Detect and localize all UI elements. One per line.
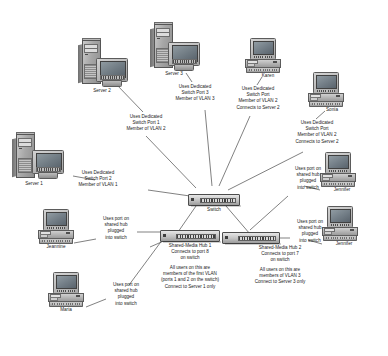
device-sonia[interactable] (308, 72, 342, 106)
network-hub-icon (160, 230, 220, 242)
desktop-computer-icon (308, 72, 342, 106)
desktop-computer-icon (38, 209, 72, 243)
crt-monitor-icon (168, 42, 198, 69)
wire-karen-switch (219, 116, 250, 186)
device-server1[interactable] (12, 134, 34, 176)
note-karen: Uses Dedicated Switch Port Member of VLA… (214, 86, 302, 111)
network-switch-icon (188, 194, 240, 206)
caption-hub2: Shared-Media Hub 2 Connects to port 7 on… (221, 245, 339, 264)
device-switch[interactable] (188, 194, 240, 206)
note-sonia: Uses Dedicated Switch Port Member of VLA… (272, 120, 362, 145)
sonia-note-line-4: Connects to Server 2 (272, 139, 362, 145)
note-jennifer-upper: Uses port on shared hub plugged into swi… (286, 166, 330, 191)
device-maria[interactable] (48, 272, 82, 306)
hub2-legend-line-3: Connect to Server 3 only (221, 279, 339, 285)
wire-server2-switch (146, 136, 196, 188)
desktop-computer-icon (48, 272, 82, 306)
label-server3: Server 3 (150, 71, 198, 77)
server2-monitor (96, 58, 126, 85)
label-sonia: Sonia (312, 107, 352, 113)
note-server2: Uses Dedicated Switch Port 1 Member of V… (99, 114, 193, 133)
jennifer2-note-line-4: into switch (288, 238, 332, 244)
wire-server1-switch (148, 190, 190, 196)
note-jennifer-lower: Uses port on shared hub plugged into swi… (288, 219, 332, 244)
wire-jennifer1-hub2 (250, 196, 288, 230)
jeannine-note-line-4: into switch (94, 235, 138, 241)
note-jeannine: Uses port on shared hub plugged into swi… (94, 216, 138, 241)
server-tower-icon (12, 134, 34, 176)
desktop-computer-icon (245, 38, 279, 72)
label-karen: Karen (248, 73, 288, 79)
hub2-caption-line-3: on switch (221, 257, 339, 263)
wire-jeannine-note (74, 239, 96, 243)
wire-maria-note (86, 299, 106, 307)
maria-note-line-4: into switch (104, 301, 148, 307)
karen-note-line-4: Connects to Server 2 (214, 105, 302, 111)
device-hub2[interactable] (222, 232, 280, 244)
server2-note-line-3: Member of VLAN 2 (99, 126, 193, 132)
label-maria: Maria (46, 307, 86, 313)
device-hub1[interactable] (160, 230, 220, 242)
note-maria: Uses port on shared hub plugged into swi… (104, 282, 148, 307)
jennifer1-note-line-4: into switch (286, 185, 330, 191)
label-server2: Server 2 (78, 88, 126, 94)
network-hub-icon (222, 232, 280, 244)
wire-server3-switch (205, 110, 212, 186)
network-diagram-canvas: Server 2 Server 3 Server 1 (0, 0, 388, 356)
server3-monitor (168, 42, 198, 69)
legend-hub2: All users on this are members of VLAN 3 … (221, 267, 339, 286)
label-switch: Switch (188, 207, 240, 213)
device-jeannine[interactable] (38, 209, 72, 243)
device-karen[interactable] (245, 38, 279, 72)
crt-monitor-icon (96, 58, 126, 85)
server1-note-line-3: Member of VLAN 1 (51, 182, 145, 188)
note-server1: Uses Dedicated Switch Port 2 Member of V… (51, 170, 145, 189)
label-jeannine: Jeannine (36, 244, 76, 250)
